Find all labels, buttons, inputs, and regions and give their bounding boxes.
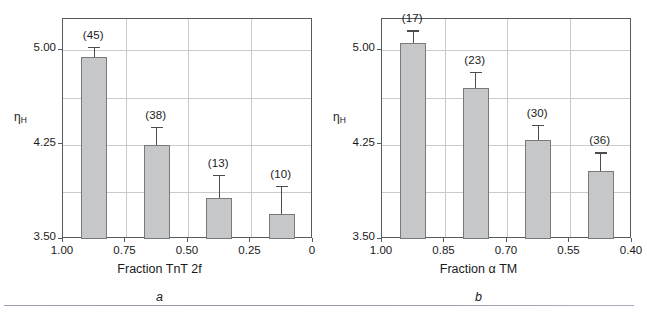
bar-count-annotation: (23): [445, 54, 505, 66]
x-axis-tick-mark: [506, 238, 507, 242]
y-axis-tick-mark: [58, 49, 62, 50]
gridline-vertical: [188, 19, 189, 237]
x-axis-tick-mark: [631, 238, 632, 242]
error-bar-cap: [532, 125, 544, 126]
x-axis-tick-mark: [381, 238, 382, 242]
chart-panel-a: ηH Fraction TnT 2f a 5.004.253.501.000.7…: [0, 0, 319, 314]
gridline-vertical: [445, 19, 446, 237]
error-bar-stem: [156, 127, 157, 145]
bar: [400, 43, 426, 239]
y-axis-tick-label: 3.50: [335, 230, 375, 242]
bar: [206, 198, 232, 239]
x-axis-tick-mark: [568, 238, 569, 242]
x-axis-label-a: Fraction TnT 2f: [0, 262, 319, 276]
error-bar-stem: [538, 125, 539, 140]
chart-panel-b: ηH Fraction α TM b 5.004.253.501.000.850…: [319, 0, 638, 314]
y-axis-tick-label: 4.25: [16, 136, 56, 148]
y-axis-tick-mark: [58, 143, 62, 144]
error-bar-stem: [413, 30, 414, 43]
y-axis-tick-mark: [377, 49, 381, 50]
x-axis-tick-mark: [124, 238, 125, 242]
y-axis-tick-label: 5.00: [335, 41, 375, 53]
x-axis-tick-mark: [62, 238, 63, 242]
x-axis-tick-mark: [187, 238, 188, 242]
error-bar-cap: [595, 152, 607, 153]
error-bar-stem: [281, 186, 282, 214]
error-bar-stem: [475, 72, 476, 88]
error-bar-stem: [94, 47, 95, 57]
y-axis-label-symbol-a: η: [14, 110, 21, 124]
x-axis-tick-label: 0.40: [606, 244, 647, 256]
x-axis-label-b: Fraction α TM: [319, 262, 638, 276]
bar: [463, 88, 489, 239]
bar-count-annotation: (10): [251, 168, 311, 180]
footer-divider-rule: [4, 305, 634, 306]
plot-frame-a: [62, 18, 312, 238]
bar-count-annotation: (30): [507, 107, 567, 119]
x-axis-tick-label: 0.85: [419, 244, 469, 256]
plot-frame-b: [381, 18, 631, 238]
y-axis-label-subscript-a: H: [21, 115, 27, 125]
x-axis-tick-label: 0.55: [544, 244, 594, 256]
error-bar-stem: [219, 175, 220, 198]
y-axis-tick-mark: [377, 143, 381, 144]
x-axis-tick-mark: [312, 238, 313, 242]
gridline-vertical: [126, 19, 127, 237]
x-axis-tick-label: 0.70: [481, 244, 531, 256]
y-axis-label-symbol-b: η: [333, 110, 340, 124]
error-bar-cap: [407, 30, 419, 31]
error-bar-cap: [151, 127, 163, 128]
bar: [588, 171, 614, 239]
bar: [269, 214, 295, 239]
bar-count-annotation: (36): [570, 134, 630, 146]
error-bar-stem: [600, 152, 601, 171]
y-axis-label-b: ηH: [333, 110, 346, 125]
error-bar-cap: [470, 72, 482, 73]
panel-caption-a: a: [0, 290, 319, 304]
x-axis-tick-label: 0.25: [225, 244, 275, 256]
bar: [144, 145, 170, 239]
error-bar-cap: [213, 175, 225, 176]
y-axis-label-subscript-b: H: [340, 115, 346, 125]
gridline-vertical: [251, 19, 252, 237]
gridline-vertical: [570, 19, 571, 237]
bar: [525, 140, 551, 239]
gridline-vertical: [507, 19, 508, 237]
bar-count-annotation: (17): [382, 12, 442, 24]
bar-count-annotation: (38): [126, 109, 186, 121]
gridline-horizontal: [63, 50, 311, 51]
bar-count-annotation: (45): [63, 29, 123, 41]
y-axis-tick-label: 5.00: [16, 41, 56, 53]
y-axis-tick-label: 4.25: [335, 136, 375, 148]
x-axis-tick-mark: [443, 238, 444, 242]
bar-count-annotation: (13): [188, 157, 248, 169]
bar: [81, 57, 107, 239]
x-axis-tick-label: 1.00: [37, 244, 87, 256]
x-axis-tick-label: 0.75: [100, 244, 150, 256]
error-bar-cap: [88, 47, 100, 48]
y-axis-label-a: ηH: [14, 110, 27, 125]
panel-caption-b: b: [319, 290, 638, 304]
x-axis-tick-label: 0.50: [162, 244, 212, 256]
error-bar-cap: [276, 186, 288, 187]
x-axis-tick-label: 1.00: [356, 244, 406, 256]
x-axis-tick-mark: [249, 238, 250, 242]
y-axis-tick-label: 3.50: [16, 230, 56, 242]
